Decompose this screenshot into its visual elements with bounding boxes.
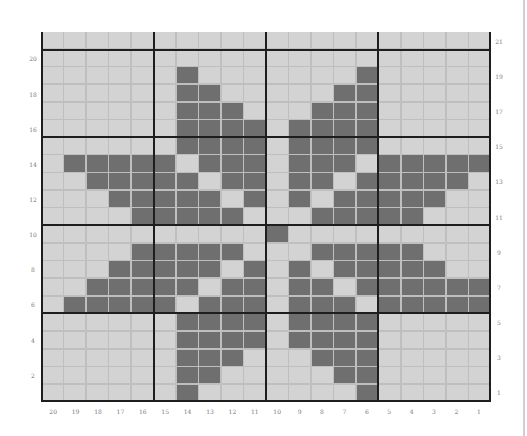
chart-cell-filled [132, 173, 153, 189]
chart-cell-filled [312, 244, 333, 260]
row-number-label-left: 18 [29, 90, 37, 97]
chart-cell-empty [222, 367, 243, 383]
chart-cell-empty [424, 103, 445, 119]
chart-cell-empty [244, 208, 265, 224]
chart-cell-filled [244, 314, 265, 330]
chart-cell-empty [154, 138, 175, 154]
chart-cell-empty [267, 50, 288, 66]
chart-cell-empty [132, 350, 153, 366]
chart-cell-empty [312, 50, 333, 66]
chart-cell-empty [469, 314, 490, 330]
chart-cell-empty [267, 332, 288, 348]
row-number-label-right: 9 [497, 248, 501, 255]
chart-cell-empty [42, 120, 63, 136]
chart-cell-empty [424, 244, 445, 260]
chart-cell-filled [357, 85, 378, 101]
chart-cell-filled [109, 191, 130, 207]
chart-cell-empty [267, 244, 288, 260]
chart-cell-filled [199, 155, 220, 171]
chart-cell-empty [267, 350, 288, 366]
chart-cell-empty [267, 297, 288, 313]
chart-cell-filled [424, 191, 445, 207]
chart-cell-empty [87, 226, 108, 242]
chart-cell-filled [222, 297, 243, 313]
chart-cell-filled [312, 279, 333, 295]
chart-cell-empty [132, 138, 153, 154]
row-number-label-right: 17 [495, 108, 503, 115]
page-edge-divider [523, 0, 525, 436]
chart-cell-empty [132, 226, 153, 242]
chart-cell-empty [87, 50, 108, 66]
chart-cell-filled [154, 297, 175, 313]
chart-cell-empty [424, 385, 445, 401]
chart-cell-filled [424, 173, 445, 189]
chart-cell-filled [469, 155, 490, 171]
chart-cell-empty [379, 103, 400, 119]
chart-cell-empty [109, 332, 130, 348]
chart-cell-filled [402, 155, 423, 171]
chart-cell-empty [132, 120, 153, 136]
chart-cell-empty [87, 208, 108, 224]
major-grid-line-horizontal [41, 136, 491, 138]
chart-cell-filled [154, 279, 175, 295]
chart-cell-filled [312, 332, 333, 348]
chart-cell-empty [244, 367, 265, 383]
chart-cell-empty [154, 67, 175, 83]
chart-cell-empty [447, 208, 468, 224]
chart-cell-empty [424, 350, 445, 366]
chart-cell-empty [267, 67, 288, 83]
chart-cell-empty [132, 332, 153, 348]
chart-cell-filled [177, 85, 198, 101]
chart-cell-empty [312, 67, 333, 83]
chart-cell-empty [334, 226, 355, 242]
chart-cell-empty [87, 332, 108, 348]
chart-cell-empty [42, 279, 63, 295]
chart-cell-filled [334, 244, 355, 260]
chart-cell-filled [177, 279, 198, 295]
chart-cell-filled [402, 261, 423, 277]
chart-cell-filled [289, 120, 310, 136]
column-number-label: 3 [432, 408, 436, 415]
major-grid-line-vertical [153, 32, 155, 401]
chart-cell-filled [199, 208, 220, 224]
chart-cell-empty [199, 67, 220, 83]
column-number-label: 18 [94, 408, 102, 415]
chart-cell-empty [312, 385, 333, 401]
chart-cell-empty [402, 385, 423, 401]
chart-cell-empty [222, 261, 243, 277]
chart-cell-filled [154, 191, 175, 207]
chart-cell-filled [357, 191, 378, 207]
chart-cell-filled [177, 67, 198, 83]
chart-cell-empty [402, 332, 423, 348]
chart-cell-empty [244, 385, 265, 401]
chart-cell-empty [244, 67, 265, 83]
chart-cell-filled [334, 350, 355, 366]
chart-cell-filled [199, 261, 220, 277]
column-number-label: 4 [410, 408, 414, 415]
chart-cell-filled [244, 261, 265, 277]
chart-cell-empty [447, 85, 468, 101]
chart-cell-empty [424, 50, 445, 66]
chart-cell-empty [64, 279, 85, 295]
row-number-label-left: 4 [31, 336, 35, 343]
chart-cell-filled [402, 208, 423, 224]
chart-cell-empty [64, 385, 85, 401]
column-number-label: 6 [365, 408, 369, 415]
row-number-label-right: 3 [497, 354, 501, 361]
chart-cell-empty [402, 67, 423, 83]
chart-cell-filled [447, 297, 468, 313]
chart-cell-filled [222, 350, 243, 366]
chart-cell-empty [312, 191, 333, 207]
chart-cell-empty [109, 32, 130, 48]
chart-cell-empty [424, 332, 445, 348]
chart-cell-empty [469, 32, 490, 48]
chart-cell-empty [64, 120, 85, 136]
chart-cell-empty [109, 244, 130, 260]
chart-cell-filled [177, 173, 198, 189]
chart-cell-empty [109, 103, 130, 119]
chart-cell-empty [267, 138, 288, 154]
row-number-label-right: 15 [495, 143, 503, 150]
chart-cell-empty [267, 120, 288, 136]
chart-cell-empty [379, 350, 400, 366]
chart-cell-empty [109, 120, 130, 136]
